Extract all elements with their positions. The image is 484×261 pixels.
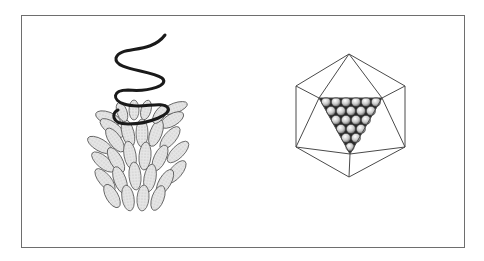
figure-canvas [0, 0, 484, 261]
icosahedral-virus [296, 54, 405, 177]
capsomere-subunits [85, 99, 192, 212]
helical-virus [85, 35, 192, 212]
